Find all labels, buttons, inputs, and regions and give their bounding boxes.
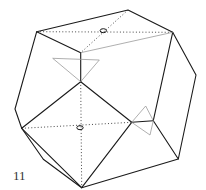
edge	[37, 32, 81, 53]
guide-line	[81, 32, 173, 52]
edge	[82, 122, 132, 187]
figure-number: 11	[13, 168, 26, 184]
crystal-diagram	[0, 0, 206, 190]
edge	[153, 32, 172, 120]
guide-triangle-upper	[53, 58, 100, 81]
outline-edge	[15, 10, 196, 188]
hidden-edge	[81, 82, 82, 188]
hidden-edge	[81, 10, 128, 53]
edge	[22, 82, 81, 129]
axis-marker-icon	[77, 126, 83, 130]
edge	[22, 128, 82, 187]
edge	[153, 121, 178, 159]
axis-marker-icon	[100, 29, 106, 33]
edge	[132, 121, 154, 123]
edge	[81, 82, 132, 123]
